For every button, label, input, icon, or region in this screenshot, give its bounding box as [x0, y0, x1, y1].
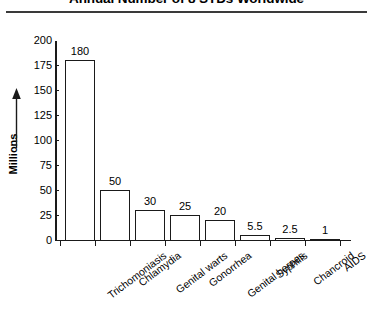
- bar-value-label: 2.5: [275, 224, 305, 235]
- chart-title: Annual Number of 8 STDs Worldwide: [0, 0, 373, 6]
- bar: [240, 235, 270, 241]
- bar-value-label: 50: [100, 176, 130, 187]
- x-axis-tick-mark: [95, 240, 96, 246]
- y-axis-tick-mark: [55, 190, 59, 191]
- y-axis-tick-label: 100: [24, 135, 52, 146]
- x-axis-tick-mark: [165, 240, 166, 246]
- y-axis-tick-mark: [55, 165, 59, 166]
- bar-value-label: 5.5: [240, 221, 270, 232]
- chart-figure: Annual Number of 8 STDs Worldwide Millio…: [0, 0, 373, 315]
- y-axis-tick-label: 200: [24, 35, 52, 46]
- x-axis-tick-mark: [340, 240, 341, 246]
- y-axis-tick-label: 125: [24, 110, 52, 121]
- y-axis-tick-label: 150: [24, 85, 52, 96]
- bar-value-label: 30: [135, 196, 165, 207]
- bar: [135, 210, 165, 240]
- y-axis-tick-mark: [55, 140, 59, 141]
- y-axis-tick-label: 175: [24, 60, 52, 71]
- x-axis-tick-mark: [270, 240, 271, 246]
- y-axis-tick-mark: [55, 215, 59, 216]
- y-axis-tick-mark: [55, 240, 59, 241]
- bar: [205, 220, 235, 240]
- x-axis-tick-mark: [60, 240, 61, 246]
- y-axis-tick-label: 50: [24, 185, 52, 196]
- bar: [310, 239, 340, 240]
- y-axis-tick-label: 0: [24, 235, 52, 246]
- bar: [100, 190, 130, 240]
- x-axis-tick-mark: [200, 240, 201, 246]
- y-axis-tick-mark: [55, 65, 59, 66]
- x-axis-tick-mark: [130, 240, 131, 246]
- x-axis-tick-mark: [235, 240, 236, 246]
- plot-area: [55, 30, 351, 240]
- y-axis-tick-labels: 2001751501251007550250: [18, 0, 52, 315]
- x-axis-tick-mark: [305, 240, 306, 246]
- title-divider-rule: [6, 11, 367, 13]
- y-axis-tick-mark: [55, 115, 59, 116]
- y-axis-tick-mark: [55, 90, 59, 91]
- bar: [170, 215, 200, 240]
- bar-value-label: 20: [205, 206, 235, 217]
- bar: [65, 60, 95, 240]
- bar-value-label: 25: [170, 201, 200, 212]
- y-axis-tick-label: 25: [24, 210, 52, 221]
- bar-value-label: 180: [65, 46, 95, 57]
- bar: [275, 238, 305, 241]
- bar-value-label: 1: [310, 225, 340, 236]
- y-axis-tick-label: 75: [24, 160, 52, 171]
